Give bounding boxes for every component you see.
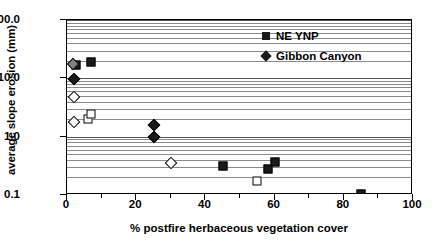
y-axis-tick-label: 10.0	[0, 71, 20, 83]
x-axis-minor-tick-mark	[170, 194, 171, 198]
gridline	[67, 78, 411, 79]
legend-item-label: Gibbon Canyon	[276, 50, 362, 62]
gridline	[67, 81, 411, 82]
legend-item: NE YNP	[262, 26, 362, 46]
gridline	[67, 150, 411, 151]
gridline	[67, 160, 411, 161]
legend-square-icon	[262, 32, 270, 40]
chart-legend: NE YNPGibbon Canyon	[262, 26, 362, 66]
gridline	[67, 177, 411, 178]
gridline	[67, 23, 411, 24]
x-axis-tick-mark	[135, 194, 136, 200]
y-axis-tick-mark	[60, 77, 66, 78]
gridline	[67, 137, 411, 138]
y-axis-tick-label: 1.0	[0, 130, 20, 142]
x-axis-tick-mark	[343, 194, 344, 200]
data-point-marker	[253, 176, 262, 185]
gridline	[67, 119, 411, 120]
data-point-marker	[68, 116, 81, 129]
data-point-marker	[218, 161, 227, 170]
legend-item-label: NE YNP	[276, 30, 319, 42]
data-point-marker	[87, 110, 96, 119]
y-axis-title: average slope erosion (mm)	[0, 0, 22, 200]
legend-diamond-icon	[260, 50, 271, 61]
gridline	[67, 96, 411, 97]
data-point-marker	[357, 189, 366, 194]
data-point-marker	[270, 157, 279, 166]
y-axis-tick-label: 0.1	[0, 188, 20, 200]
data-point-marker	[147, 130, 160, 143]
y-axis-tick-label: 100.0	[0, 13, 20, 25]
gridline	[67, 146, 411, 147]
x-axis-tick-mark	[412, 194, 413, 200]
gridline	[67, 109, 411, 110]
gridline	[67, 20, 411, 21]
x-axis-minor-tick-mark	[239, 194, 240, 198]
x-axis-tick-mark	[66, 194, 67, 200]
gridline	[67, 154, 411, 155]
gridline	[67, 142, 411, 143]
y-axis-title-text: average slope erosion (mm)	[5, 25, 17, 175]
gridline	[67, 84, 411, 85]
gridline	[67, 167, 411, 168]
x-axis-tick-mark	[204, 194, 205, 200]
y-axis-tick-mark	[60, 136, 66, 137]
x-axis-title: % postfire herbaceous vegetation cover	[66, 222, 412, 234]
gridline	[67, 87, 411, 88]
scatter-chart-figure: average slope erosion (mm) NE YNPGibbon …	[0, 0, 439, 250]
gridline	[67, 139, 411, 140]
gridline	[67, 91, 411, 92]
legend-item: Gibbon Canyon	[262, 46, 362, 66]
x-axis-minor-tick-mark	[377, 194, 378, 198]
data-point-marker	[87, 58, 96, 67]
x-axis-minor-tick-mark	[308, 194, 309, 198]
x-axis-tick-mark	[274, 194, 275, 200]
gridline	[67, 102, 411, 103]
y-axis-tick-mark	[60, 19, 66, 20]
x-axis-minor-tick-mark	[101, 194, 102, 198]
